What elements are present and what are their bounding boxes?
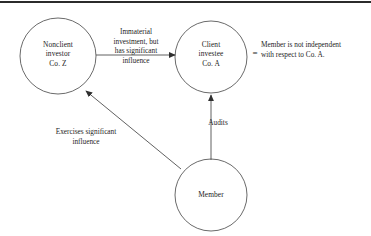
- edge-label-influence: Exercises significant influence: [38, 127, 134, 146]
- edge-label-investment: Immaterial investment, but has significa…: [96, 27, 176, 65]
- node-client-investee-shape: [175, 21, 247, 93]
- node-member-shape: [175, 159, 247, 231]
- diagram-graphics: [0, 0, 371, 236]
- diagram-canvas: Nonclient investor Co. Z Client investee…: [0, 0, 371, 236]
- node-nonclient-investor-shape: [20, 18, 96, 94]
- conclusion-text: Member is not independent with respect t…: [261, 40, 367, 60]
- equals-sign: =: [250, 47, 260, 59]
- edge-label-audits: Audits: [196, 118, 240, 128]
